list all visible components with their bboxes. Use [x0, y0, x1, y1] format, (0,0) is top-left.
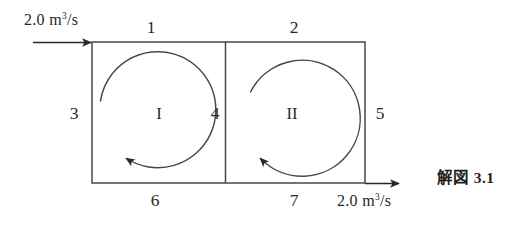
- figure-caption: 解図3.1: [437, 165, 494, 187]
- pipe-label-4: 4: [207, 105, 223, 123]
- pipe-label-6: 6: [147, 192, 163, 210]
- pipe-label-7: 7: [286, 192, 302, 210]
- pipe-label-2: 2: [286, 19, 302, 37]
- loop-label-1: I: [152, 104, 166, 124]
- figure-caption-label: 解図: [437, 168, 470, 187]
- outlet-flow-label: 2.0 m3/s: [337, 193, 391, 209]
- inlet-flow-label: 2.0 m3/s: [24, 12, 78, 28]
- figure-caption-number: 3.1: [474, 169, 495, 186]
- pipe-label-3: 3: [66, 105, 82, 123]
- pipe-label-5: 5: [372, 105, 388, 123]
- loop-label-2: II: [283, 104, 301, 124]
- loop-2-rotation-arrow: [251, 60, 361, 176]
- pipe-label-1: 1: [143, 19, 159, 37]
- pipe-network-figure: 2.0 m3/s 2.0 m3/s 1 2 3 4 5 6 7 I II 解図3…: [0, 0, 529, 229]
